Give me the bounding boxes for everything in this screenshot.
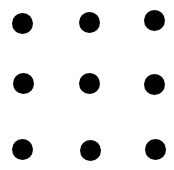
dot-r1-c0 [13,73,34,94]
dot-r2-c1 [80,140,101,161]
dot-r2-c2 [145,139,166,160]
dot-r0-c2 [144,10,165,31]
dot-r1-c1 [79,73,100,94]
dot-r1-c2 [144,74,165,95]
dot-r2-c0 [12,139,33,160]
dot-r0-c1 [79,12,100,33]
dot-r0-c0 [12,13,33,34]
